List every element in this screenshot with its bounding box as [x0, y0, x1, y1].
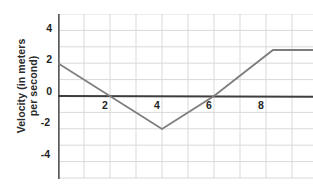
y-tick-label-2: 2	[30, 53, 52, 65]
y-tick-label-4: 4	[30, 22, 52, 34]
zero-line	[58, 96, 313, 97]
y-tick-label-neg4: -4	[28, 148, 50, 160]
y-tick-label-0: 0	[30, 85, 52, 97]
y-axis-label-line1: Velocity (in meters	[15, 11, 27, 161]
velocity-time-chart: Velocity (in meters per second) 4 2 0 -2…	[0, 0, 313, 187]
velocity-data-line	[58, 50, 313, 129]
plot-area	[58, 14, 313, 179]
plot-svg	[58, 14, 313, 179]
y-tick-label-neg2: -2	[28, 116, 50, 128]
